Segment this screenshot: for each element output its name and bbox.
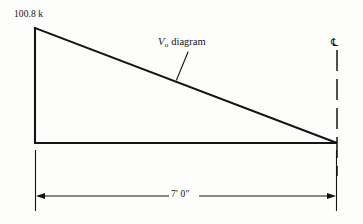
vu-label-leader-line [177,52,189,80]
figure-canvas: 100.8 k Vudiagram 7' 0" ℄ [0,0,363,224]
centerline-symbol-icon: ℄ [331,37,338,48]
vu-diagram-label: Vudiagram [158,37,206,49]
vu-diagram-word: diagram [168,36,205,47]
dimension-arrowhead-right [327,193,336,199]
peak-shear-value-label: 100.8 k [14,10,43,20]
dimension-arrowhead-left [36,193,45,199]
span-dimension-label: 7' 0" [169,190,191,200]
